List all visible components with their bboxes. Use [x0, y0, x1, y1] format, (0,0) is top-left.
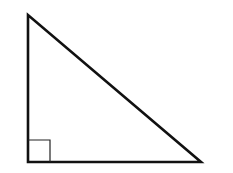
right-angle-marker: [28, 140, 50, 162]
right-triangle-diagram: [0, 0, 233, 173]
triangle: [28, 15, 201, 162]
